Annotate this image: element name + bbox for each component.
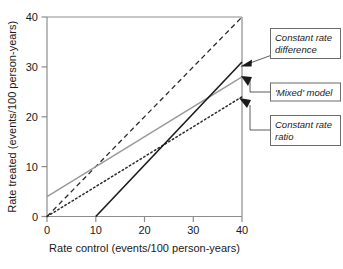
chart-figure: 0 10 20 30 40 0 10 20 30 40 Rate control…: [0, 0, 343, 269]
rate-treated-vs-rate-control-plot: 0 10 20 30 40 0 10 20 30 40 Rate control…: [0, 0, 343, 269]
x-tick-label-30: 30: [187, 224, 199, 236]
y-tick-label-0: 0: [32, 211, 38, 223]
x-tick-label-0: 0: [44, 224, 50, 236]
x-tick-label-40: 40: [236, 224, 248, 236]
annotation-text-ratio-line1: Constant rate: [275, 119, 332, 130]
annotation-text-difference-line1: Constant rate: [275, 32, 332, 43]
annotation-text-difference-line2: difference: [275, 44, 317, 55]
y-axis-title: Rate treated (events/100 person-years): [6, 21, 18, 213]
x-tick-label-10: 10: [90, 224, 102, 236]
y-tick-label-10: 10: [26, 161, 38, 173]
x-axis-title: Rate control (events/100 person-years): [49, 242, 240, 254]
annotation-text-mixed-line1: 'Mixed' model: [275, 87, 333, 98]
y-tick-label-30: 30: [26, 61, 38, 73]
y-tick-label-40: 40: [26, 11, 38, 23]
y-tick-label-20: 20: [26, 111, 38, 123]
x-tick-label-20: 20: [138, 224, 150, 236]
annotation-text-ratio-line2: ratio: [275, 131, 293, 142]
